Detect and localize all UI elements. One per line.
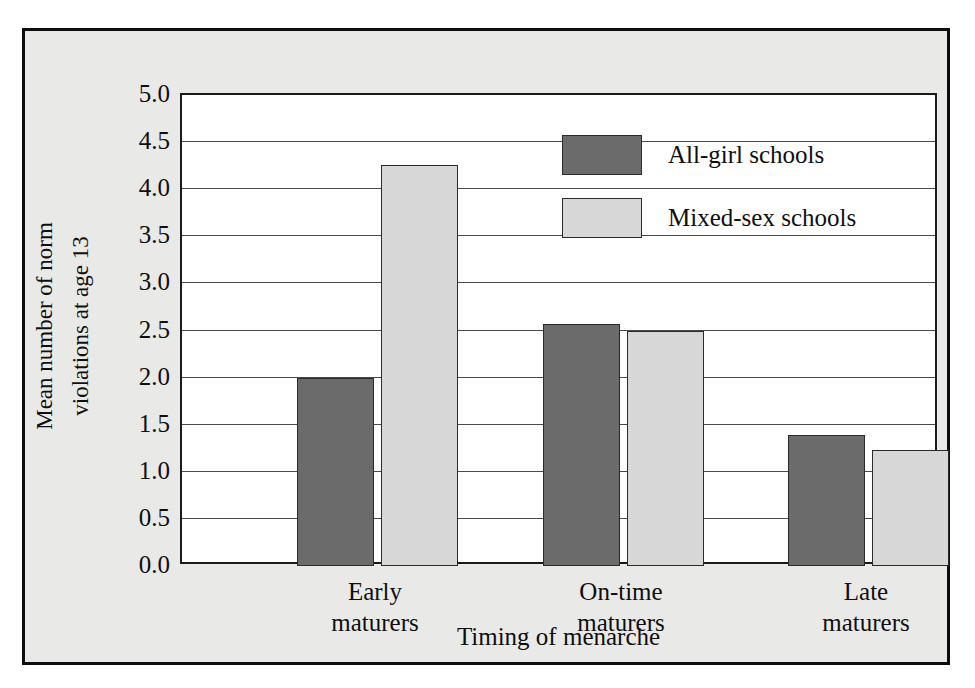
bar <box>788 435 865 566</box>
y-axis-tick-label: 2.0 <box>108 363 170 388</box>
y-axis-tick-label: 1.5 <box>108 410 170 435</box>
bar <box>872 450 949 566</box>
y-axis-tick-label: 0.0 <box>108 552 170 577</box>
y-axis-tick-label: 5.0 <box>108 81 170 106</box>
x-axis-category-line: Late <box>746 577 975 608</box>
legend-item[interactable]: All-girl schools <box>562 134 824 176</box>
legend-label: Mixed-sex schools <box>668 204 856 232</box>
gridline <box>182 282 935 283</box>
y-axis-tick-label: 4.5 <box>108 128 170 153</box>
y-axis-title: Mean number of norm violations at age 13 <box>30 161 96 491</box>
figure: Mean number of norm violations at age 13… <box>0 0 975 688</box>
y-axis-tick-label: 3.0 <box>108 269 170 294</box>
bar <box>627 331 704 567</box>
y-axis-tick-label: 3.5 <box>108 222 170 247</box>
bar <box>297 378 374 566</box>
legend-label: All-girl schools <box>668 141 824 169</box>
y-axis-tick-label: 4.0 <box>108 175 170 200</box>
y-axis-tick-label: 1.0 <box>108 457 170 482</box>
legend-swatch <box>562 198 642 238</box>
gridline <box>182 188 935 189</box>
bar <box>381 165 458 566</box>
x-axis-title: Timing of menarche <box>180 623 937 651</box>
y-axis-ticks: 5.04.54.03.53.02.52.01.51.00.50.0 <box>104 93 170 564</box>
y-axis-title-line-1: Mean number of norm <box>32 222 58 430</box>
y-axis-title-line-2: violations at age 13 <box>68 236 94 416</box>
bar <box>543 324 620 566</box>
legend-swatch <box>562 135 642 175</box>
x-axis-category-line: Early <box>255 577 495 608</box>
legend-item[interactable]: Mixed-sex schools <box>562 197 856 239</box>
x-axis-category-line: On-time <box>501 577 741 608</box>
y-axis-tick-label: 2.5 <box>108 316 170 341</box>
y-axis-tick-label: 0.5 <box>108 504 170 529</box>
chart-frame: Mean number of norm violations at age 13… <box>22 28 950 665</box>
